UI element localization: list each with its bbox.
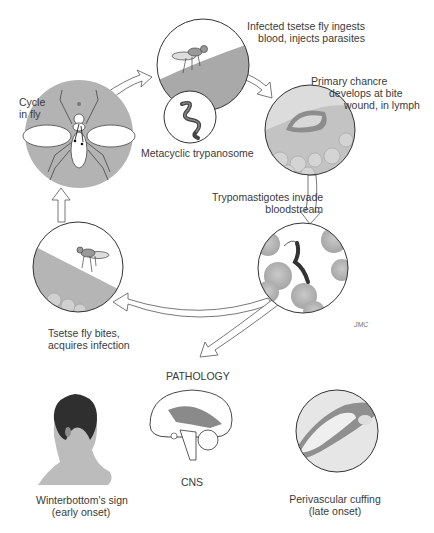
cns-text: CNS — [172, 476, 212, 488]
ingest-line1: Infected tsetse fly ingests — [247, 20, 365, 32]
bite-label: Tsetse fly bites, acquires infection — [48, 327, 130, 351]
chancre-line1: Primary chancre — [311, 75, 420, 87]
arrow-bite-to-fly — [52, 188, 70, 222]
bloodstream-label: Trypomastigotes invade bloodstream — [212, 191, 323, 215]
bite-line2: acquires infection — [48, 339, 130, 351]
fly-bites-circle — [30, 220, 130, 320]
fly-cycle-line2: in fly — [19, 108, 45, 120]
cns-brain-illustration — [150, 390, 232, 460]
metacyclic-text: Metacyclic trypanosome — [141, 147, 254, 159]
metacyclic-circle — [164, 91, 216, 143]
metacyclic-label: Metacyclic trypanosome — [141, 147, 254, 159]
bloodstream-line1: Trypomastigotes invade — [212, 191, 323, 203]
winterbottom-head-illustration — [38, 394, 112, 485]
perivascular-line2: (late onset) — [260, 505, 410, 517]
ingest-line2: blood, injects parasites — [247, 32, 365, 44]
perivascular-cuffing-illustration — [290, 388, 382, 474]
artist-signature: JMC — [354, 319, 368, 331]
perivascular-label: Perivascular cuffing (late onset) — [260, 493, 410, 517]
bloodstream-line2: bloodstream — [212, 203, 323, 215]
winterbottom-line1: Winterbottom's sign — [36, 494, 126, 506]
chancre-line2: develops at bite — [311, 87, 420, 99]
pathology-heading: PATHOLOGY — [166, 370, 230, 382]
pathology-heading-text: PATHOLOGY — [166, 370, 230, 382]
fly-cycle-line1: Cycle — [19, 96, 45, 108]
fly-cycle-label: Cycle in fly — [19, 96, 45, 120]
chancre-line3: wound, in lymph — [311, 99, 420, 111]
chancre-label: Primary chancre develops at bite wound, … — [311, 75, 420, 111]
signature-text: JMC — [354, 319, 368, 331]
perivascular-line1: Perivascular cuffing — [260, 493, 410, 505]
winterbottom-line2: (early onset) — [36, 506, 126, 518]
arrow-blood-to-bite — [113, 293, 272, 317]
ingest-label: Infected tsetse fly ingests blood, injec… — [247, 20, 365, 44]
life-cycle-diagram: Cycle in fly Infected tsetse fly ingests… — [0, 0, 434, 533]
cns-label: CNS — [172, 476, 212, 488]
bite-line1: Tsetse fly bites, — [48, 327, 130, 339]
winterbottom-label: Winterbottom's sign (early onset) — [36, 494, 126, 518]
